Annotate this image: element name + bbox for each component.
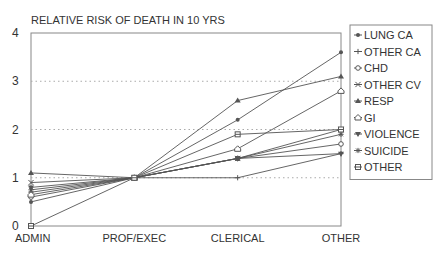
triangle-up-marker-icon — [28, 170, 34, 175]
dot-marker-icon — [29, 200, 33, 204]
legend-label: GI — [364, 112, 376, 124]
triangle-up-marker-icon — [338, 73, 344, 78]
plus-marker-icon — [235, 175, 240, 180]
series-line — [31, 154, 341, 193]
star-marker-icon — [235, 156, 240, 161]
line-chart: RELATIVE RISK OF DEATH IN 10 YRS 01234AD… — [0, 0, 434, 255]
square-line-marker-icon — [29, 224, 34, 229]
star-marker-icon — [338, 132, 343, 137]
legend-label: OTHER CA — [364, 46, 422, 58]
legend-label: OTHER CV — [364, 79, 422, 91]
square-line-marker-icon — [235, 132, 240, 137]
plot-area: 01234ADMINPROF/EXECCLERICALOTHER — [12, 26, 360, 244]
y-tick-label: 0 — [12, 219, 19, 233]
x-tick-label: PROF/EXEC — [103, 232, 167, 244]
x-tick-label: ADMIN — [15, 232, 51, 244]
legend-label: OTHER — [364, 161, 403, 173]
circle-marker-icon — [356, 66, 361, 71]
legend-label: LUNG CA — [364, 29, 414, 41]
dot-marker-icon — [356, 33, 360, 37]
house-marker-icon — [235, 146, 241, 152]
star-marker-icon — [28, 187, 33, 192]
legend-label: VIOLENCE — [364, 128, 420, 140]
circle-marker-icon — [339, 142, 344, 147]
legend: LUNG CAOTHER CACHDOTHER CVRESPGIVIOLENCE… — [350, 25, 432, 180]
series-line — [31, 76, 341, 177]
house-marker-icon — [338, 88, 344, 94]
star-marker-icon — [355, 148, 360, 153]
square-line-marker-icon — [356, 165, 361, 170]
series-line — [31, 52, 341, 202]
legend-label: RESP — [364, 95, 394, 107]
y-tick-label: 3 — [12, 74, 19, 88]
y-tick-label: 2 — [12, 123, 19, 137]
y-tick-label: 1 — [12, 171, 19, 185]
dot-marker-icon — [339, 50, 343, 54]
square-line-marker-icon — [339, 127, 344, 132]
square-line-marker-icon — [132, 175, 137, 180]
series-line — [31, 154, 341, 188]
legend-label: CHD — [364, 62, 388, 74]
legend-label: SUICIDE — [364, 145, 409, 157]
dot-marker-icon — [236, 118, 240, 122]
series-line — [31, 144, 341, 197]
chart-title: RELATIVE RISK OF DEATH IN 10 YRS — [31, 14, 225, 26]
y-tick-label: 4 — [12, 26, 19, 40]
x-tick-label: OTHER — [322, 232, 361, 244]
x-tick-label: CLERICAL — [211, 232, 265, 244]
